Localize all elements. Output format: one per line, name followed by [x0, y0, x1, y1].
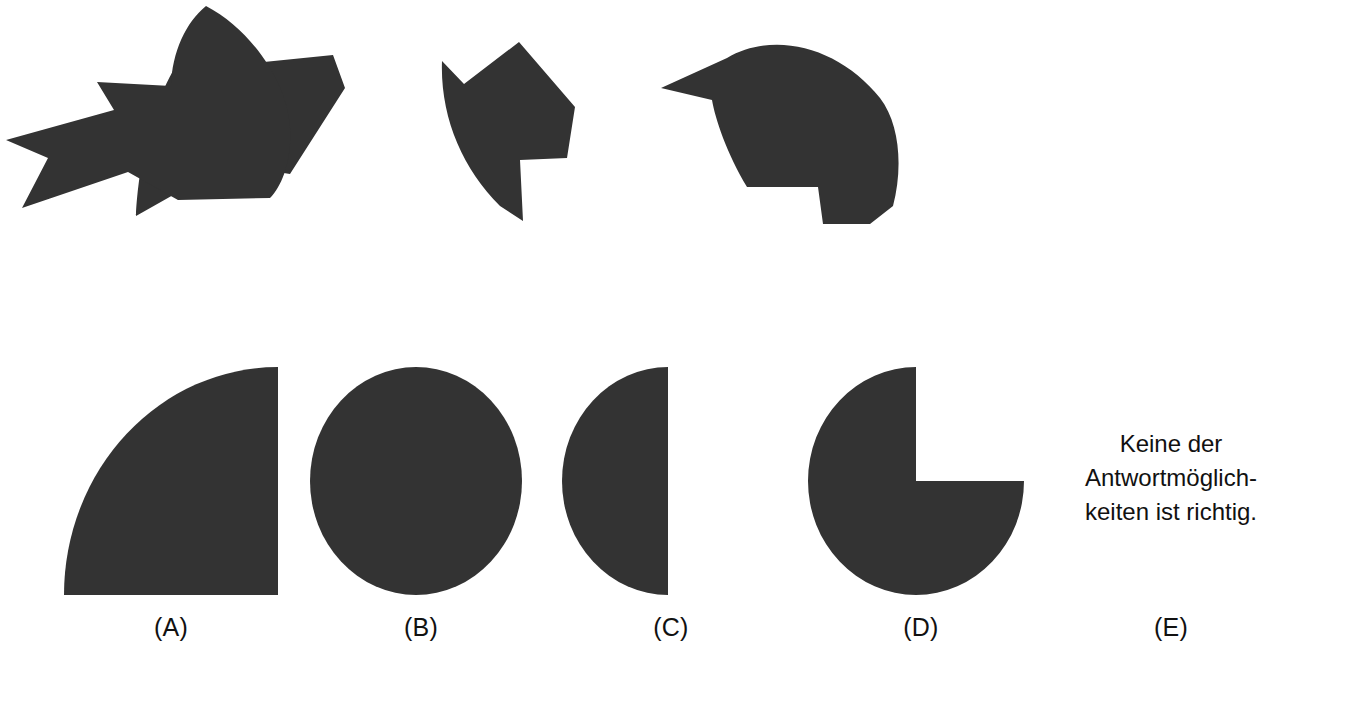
answer-option-a-figure: [46, 355, 296, 605]
puzzle-piece-4: [0, 0, 300, 212]
three-quarter-circle-icon: [796, 355, 1046, 605]
test-item-sheet: (A) (B) (C): [0, 0, 1356, 703]
answer-options-row: (A) (B) (C): [0, 355, 1356, 703]
answer-option-b-label: (B): [296, 613, 546, 642]
puzzle-piece-2: [412, 38, 592, 234]
answer-option-b-figure: [296, 355, 546, 605]
answer-option-e[interactable]: Keine der Antwortmöglich- keiten ist ric…: [1046, 355, 1296, 665]
answer-option-c-figure: [546, 355, 796, 605]
answer-option-c-label: (C): [546, 613, 796, 642]
answer-option-a[interactable]: (A): [46, 355, 296, 665]
answer-option-c[interactable]: (C): [546, 355, 796, 665]
puzzle-piece-3: [655, 28, 905, 233]
answer-option-e-text: Keine der Antwortmöglich- keiten ist ric…: [1046, 427, 1296, 529]
answer-option-d-figure: [796, 355, 1046, 605]
answer-option-d[interactable]: (D): [796, 355, 1046, 665]
full-circle-icon: [296, 355, 546, 605]
answer-option-b[interactable]: (B): [296, 355, 546, 665]
answer-option-d-label: (D): [796, 613, 1046, 642]
answer-option-a-label: (A): [46, 613, 296, 642]
quarter-circle-icon: [46, 355, 296, 605]
answer-option-e-label: (E): [1046, 613, 1296, 642]
puzzle-pieces-row: [0, 0, 1356, 300]
half-circle-icon: [546, 355, 796, 605]
